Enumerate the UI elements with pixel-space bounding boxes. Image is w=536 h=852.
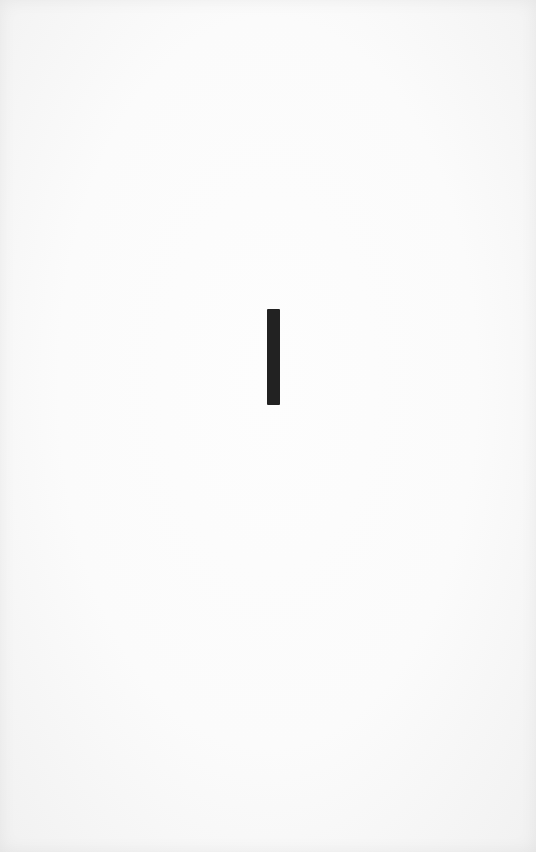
page-edge-shading [0,0,536,852]
blank-page [0,0,536,852]
vertical-bar-mark [267,309,280,405]
